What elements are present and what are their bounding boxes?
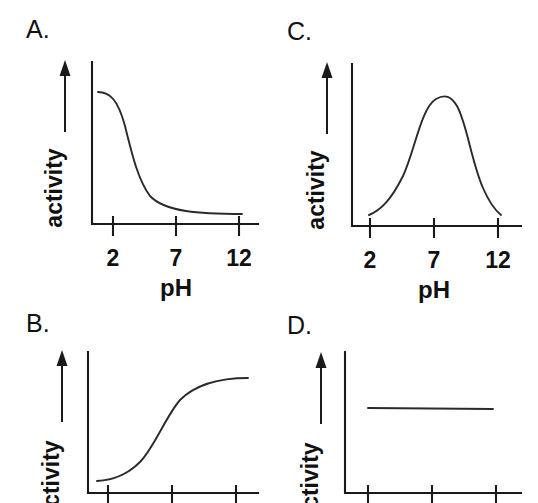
panel-b-y-axis-title: activity bbox=[38, 440, 64, 503]
panel-b-axes bbox=[88, 352, 258, 493]
panel-a-tick-label-7: 7 bbox=[170, 245, 183, 271]
panel-a-y-axis-title: activity bbox=[41, 148, 67, 227]
panel-d-activity-arrow-icon bbox=[316, 352, 327, 424]
panel-a-x-axis-title: pH bbox=[160, 274, 192, 301]
panel-d-y-axis-title: activity bbox=[297, 442, 323, 503]
panel-c-axes bbox=[352, 64, 521, 226]
panel-a-tick-label-12: 12 bbox=[226, 245, 252, 271]
panel-c-curve bbox=[369, 96, 501, 215]
panel-c-x-axis-title: pH bbox=[418, 276, 450, 303]
panel-c: C. activity 2 7 12 pH bbox=[269, 0, 538, 300]
panel-b: B. activity bbox=[0, 300, 269, 503]
panel-b-letter: B. bbox=[26, 309, 50, 337]
panel-a-tick-label-2: 2 bbox=[107, 245, 120, 271]
panel-a-letter: A. bbox=[26, 15, 50, 43]
panel-d: D. activity bbox=[269, 300, 538, 503]
panel-d-curve bbox=[368, 408, 493, 409]
panel-b-activity-arrow-icon bbox=[57, 350, 68, 422]
panel-a: A. activity 2 7 12 pH bbox=[0, 0, 269, 300]
panel-c-activity-arrow-icon bbox=[322, 62, 333, 134]
four-panel-ph-activity-figure: A. activity 2 7 12 pH C. bbox=[0, 0, 538, 503]
panel-a-axes bbox=[92, 62, 258, 224]
panel-c-letter: C. bbox=[287, 17, 312, 45]
panel-d-letter: D. bbox=[287, 311, 312, 339]
panel-c-tick-label-2: 2 bbox=[364, 247, 377, 273]
panel-a-curve bbox=[98, 92, 242, 214]
panel-a-activity-arrow-icon bbox=[60, 60, 71, 132]
panel-d-axes bbox=[345, 352, 521, 493]
panel-c-tick-label-12: 12 bbox=[485, 247, 511, 273]
panel-c-y-axis-title: activity bbox=[303, 150, 329, 229]
panel-c-tick-label-7: 7 bbox=[428, 247, 441, 273]
panel-b-curve bbox=[97, 378, 248, 481]
